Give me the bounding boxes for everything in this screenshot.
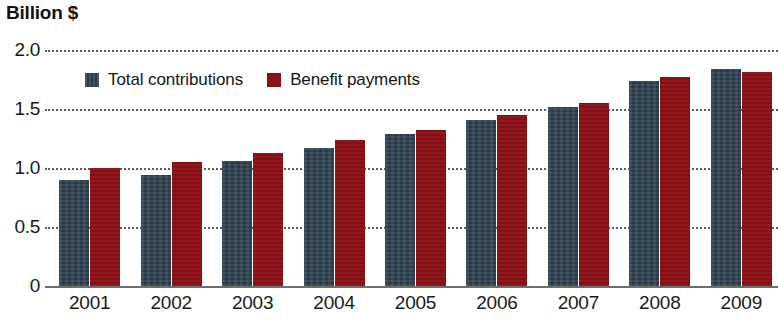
bar <box>416 130 446 286</box>
bar <box>385 134 415 286</box>
bar <box>548 107 578 286</box>
y-axis-tick-label: 0 <box>0 275 40 297</box>
y-axis-tick-label: 0.5 <box>0 216 40 238</box>
bar <box>497 115 527 286</box>
axis-baseline <box>45 286 778 288</box>
bar-group <box>711 50 772 286</box>
legend-label: Total contributions <box>108 70 243 90</box>
bar <box>742 72 772 286</box>
legend-item-total-contributions: Total contributions <box>85 70 243 90</box>
bar <box>629 81 659 286</box>
legend-item-benefit-payments: Benefit payments <box>267 70 420 90</box>
legend-swatch-icon <box>267 73 281 87</box>
bar-group <box>466 50 527 286</box>
legend-label: Benefit payments <box>290 70 420 90</box>
x-axis-tick-label: 2002 <box>134 292 208 314</box>
chart-legend: Total contributions Benefit payments <box>85 70 420 90</box>
x-axis-tick-label: 2009 <box>704 292 778 314</box>
y-axis-tick-label: 2.0 <box>0 39 40 61</box>
bar <box>711 69 741 286</box>
bar <box>304 148 334 286</box>
bar <box>579 103 609 286</box>
x-axis-tick-label: 2001 <box>53 292 127 314</box>
x-axis-tick-label: 2004 <box>297 292 371 314</box>
bar <box>59 180 89 286</box>
bar <box>172 162 202 286</box>
legend-swatch-icon <box>85 73 99 87</box>
bar <box>90 168 120 286</box>
bar-group <box>629 50 690 286</box>
bar <box>335 140 365 286</box>
bar <box>222 161 252 286</box>
bar-chart: Billion $ 00.51.01.52.0 2001200220032004… <box>0 0 778 324</box>
x-axis-tick-label: 2007 <box>541 292 615 314</box>
y-axis-tick-label: 1.0 <box>0 157 40 179</box>
chart-axis-title: Billion $ <box>6 2 78 24</box>
bar <box>466 120 496 286</box>
x-axis-tick-label: 2008 <box>623 292 697 314</box>
x-axis-tick-label: 2006 <box>460 292 534 314</box>
x-axis-tick-label: 2003 <box>216 292 290 314</box>
bar <box>253 153 283 286</box>
bar <box>660 77 690 286</box>
bar <box>141 175 171 286</box>
y-axis-tick-label: 1.5 <box>0 98 40 120</box>
x-axis-tick-label: 2005 <box>379 292 453 314</box>
bar-group <box>548 50 609 286</box>
